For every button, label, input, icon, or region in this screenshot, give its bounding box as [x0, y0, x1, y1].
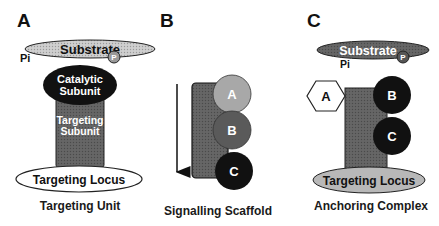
targeting-subunit-line2: Subunit [60, 125, 100, 137]
panel-b-letter: B [160, 10, 174, 31]
pi-label: Pi [20, 52, 30, 64]
node-b-label-c: B [387, 88, 396, 103]
node-b-label: B [227, 123, 236, 138]
targeting-locus-label: Targeting Locus [33, 173, 126, 187]
panel-b: B A B C Signalling Scaffold [160, 10, 272, 218]
targeting-locus-label-c: Targeting Locus [323, 174, 416, 188]
substrate-label-c: Substrate [339, 44, 397, 58]
panel-a-caption: Targeting Unit [40, 199, 120, 213]
phosphate-label-c: P [400, 53, 406, 62]
phosphate-label: P [111, 53, 117, 62]
panel-c-letter: C [307, 10, 321, 31]
node-c-label: C [229, 164, 239, 179]
node-c-label-c: C [387, 129, 397, 144]
diagram-canvas: A Substrate P Pi Targeting Subunit Catal… [0, 0, 439, 226]
panel-a: A Substrate P Pi Targeting Subunit Catal… [16, 10, 155, 213]
node-a-label-c: A [321, 89, 331, 104]
catalytic-line1: Catalytic [57, 73, 103, 85]
node-a-label: A [227, 87, 237, 102]
pi-label-c: Pi [340, 58, 350, 70]
panel-b-caption: Signalling Scaffold [164, 204, 272, 218]
panel-a-letter: A [17, 10, 31, 31]
panel-c: C Substrate P Pi Targeting Locus A B C A… [307, 10, 429, 213]
panel-c-caption: Anchoring Complex [314, 199, 428, 213]
catalytic-line2: Subunit [60, 85, 101, 97]
